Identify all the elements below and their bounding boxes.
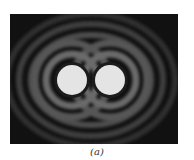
diffraction-pattern-image — [10, 14, 178, 144]
airy-disk-left — [57, 65, 87, 95]
figure-caption: (a) — [0, 146, 194, 157]
airy-disk-right — [95, 65, 125, 95]
